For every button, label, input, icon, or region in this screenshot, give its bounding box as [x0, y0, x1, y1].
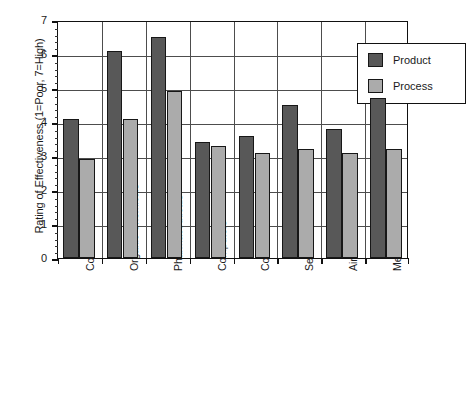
plot-area: ProductProcess [57, 21, 408, 259]
y-tick-minor [55, 253, 59, 254]
y-tick-minor [55, 76, 59, 77]
y-tick-major-1 [52, 225, 58, 226]
y-tick-minor [55, 199, 59, 200]
y-tick-major-4 [52, 123, 58, 124]
category-separator [277, 22, 278, 258]
x-tick [408, 258, 409, 264]
y-tick-minor [55, 240, 59, 241]
bar-process-semiconductors [298, 149, 314, 258]
y-tick-minor [55, 110, 59, 111]
y-tick-minor [55, 172, 59, 173]
category-separator [234, 22, 235, 258]
y-tick-minor [55, 219, 59, 220]
y-tick-minor [55, 117, 59, 118]
bar-product-communications [239, 136, 255, 258]
y-tick-minor [55, 206, 59, 207]
bar-product-medical-instruments [370, 98, 386, 258]
y-tick-label-6: 6 [33, 49, 47, 60]
category-separator [321, 22, 322, 258]
y-tick-label-2: 2 [33, 185, 47, 196]
y-tick-minor [55, 131, 59, 132]
y-tick-minor [55, 246, 59, 247]
x-tick [321, 258, 322, 264]
y-tick-minor [55, 144, 59, 145]
y-tick-label-1: 1 [33, 219, 47, 230]
bar-product-semiconductors [282, 105, 298, 258]
y-tick-minor [55, 97, 59, 98]
legend: ProductProcess [357, 43, 466, 104]
y-tick-minor [55, 83, 59, 84]
y-tick-minor [55, 138, 59, 139]
y-tick-minor [55, 42, 59, 43]
bar-product-aircraft [326, 129, 342, 258]
bar-process-organic-chemicals [123, 119, 139, 258]
bar-process-medical-instruments [386, 149, 402, 258]
y-tick-minor [55, 29, 59, 30]
bar-process-communications [255, 153, 271, 258]
category-separator [146, 22, 147, 258]
y-tick-minor [55, 104, 59, 105]
y-tick-major-5 [52, 89, 58, 90]
x-tick [58, 258, 59, 264]
y-tick-minor [55, 70, 59, 71]
legend-swatch-product [368, 53, 383, 67]
bar-product-cosmetics [63, 119, 79, 258]
y-tick-major-2 [52, 191, 58, 192]
y-tick-minor [55, 185, 59, 186]
y-tick-minor [55, 178, 59, 179]
x-tick [234, 258, 235, 264]
bar-product-computers [195, 142, 211, 258]
x-tick [365, 258, 366, 264]
x-tick [277, 258, 278, 264]
y-tick-label-4: 4 [33, 117, 47, 128]
y-tick-minor [55, 151, 59, 152]
y-tick-minor [55, 63, 59, 64]
y-tick-minor [55, 49, 59, 50]
y-tick-minor [55, 233, 59, 234]
y-tick-minor [55, 36, 59, 37]
category-separator [102, 22, 103, 258]
legend-swatch-process [368, 79, 383, 93]
bar-process-aircraft [342, 153, 358, 258]
y-tick-major-7 [52, 21, 58, 22]
y-tick-major-3 [52, 157, 58, 158]
y-tick-label-5: 5 [33, 83, 47, 94]
bar-product-pharmaceuticals [151, 37, 167, 258]
y-tick-label-7: 7 [33, 15, 47, 26]
legend-entry-product: Product [368, 53, 431, 67]
x-tick [146, 258, 147, 264]
bar-product-organic-chemicals [107, 51, 123, 258]
legend-label-product: Product [393, 54, 431, 66]
category-separator [190, 22, 191, 258]
y-tick-label-3: 3 [33, 151, 47, 162]
bar-process-computers [211, 146, 227, 258]
bar-process-cosmetics [79, 159, 95, 258]
bar-process-pharmaceuticals [167, 91, 183, 258]
y-tick-minor [55, 165, 59, 166]
legend-entry-process: Process [368, 79, 433, 93]
y-tick-minor [55, 212, 59, 213]
legend-label-process: Process [393, 80, 433, 92]
x-tick [102, 258, 103, 264]
y-tick-label-0: 0 [33, 253, 47, 264]
x-tick [190, 258, 191, 264]
y-tick-major-6 [52, 55, 58, 56]
